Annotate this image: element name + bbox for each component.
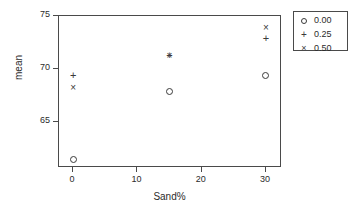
x-tick-mark	[136, 167, 137, 172]
plus-marker-icon	[299, 29, 309, 40]
y-tick-label: 70	[28, 62, 50, 72]
data-point	[165, 51, 174, 60]
data-point	[69, 83, 78, 92]
y-axis-title: mean	[13, 38, 24, 98]
data-point	[70, 156, 77, 163]
plot-frame	[58, 15, 281, 167]
y-tick-label: 75	[28, 9, 50, 19]
cross-marker-icon	[299, 43, 309, 54]
legend-entry-label: 0.25	[314, 29, 332, 40]
circle-marker-icon	[299, 15, 309, 26]
x-tick-label: 20	[186, 174, 216, 184]
x-tick-label: 10	[121, 174, 151, 184]
x-tick-mark	[265, 167, 266, 172]
legend-box: 0.000.250.50	[293, 11, 348, 51]
x-tick-mark	[72, 167, 73, 172]
scatter-plot-figure: 0102030 757065 Sand% mean 0.000.250.50	[0, 0, 362, 213]
legend-entry: 0.50	[294, 43, 347, 54]
legend-entry-label: 0.50	[314, 43, 332, 54]
data-point	[166, 88, 173, 95]
y-tick-mark	[53, 68, 58, 69]
plot-area	[59, 16, 280, 166]
legend-entry: 0.00	[294, 15, 347, 26]
x-tick-mark	[201, 167, 202, 172]
x-axis-title: Sand%	[58, 191, 281, 202]
x-tick-label: 0	[57, 174, 87, 184]
x-tick-label: 30	[250, 174, 280, 184]
legend-entry: 0.25	[294, 29, 347, 40]
y-tick-label: 65	[28, 115, 50, 125]
data-point	[261, 23, 270, 32]
y-tick-mark	[53, 121, 58, 122]
data-point	[262, 72, 269, 79]
data-point	[69, 71, 78, 80]
data-point	[261, 34, 270, 43]
legend-entry-label: 0.00	[314, 15, 332, 26]
y-tick-mark	[53, 15, 58, 16]
